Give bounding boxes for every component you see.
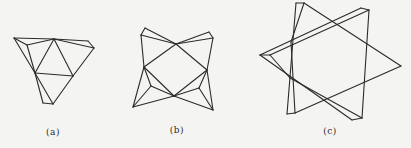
fold-edge	[291, 3, 304, 42]
fold-edge	[270, 55, 290, 78]
figure-c-label: (c)	[323, 126, 337, 136]
fold-edge	[260, 8, 361, 55]
figure-b-label: (b)	[170, 125, 184, 135]
fold-edge	[352, 118, 362, 120]
fold-edge	[361, 8, 369, 10]
figure-a-label: (a)	[46, 127, 60, 137]
fold-edge	[287, 113, 295, 114]
fold-edge	[362, 10, 369, 118]
fold-edge	[270, 10, 369, 55]
fold-edge	[290, 78, 362, 118]
diagram-canvas: (a) (b) (c)	[0, 0, 411, 148]
figure-c-star-of-triangles	[0, 0, 411, 148]
